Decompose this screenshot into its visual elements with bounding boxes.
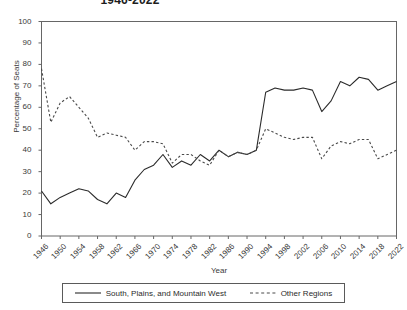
chart-figure: 1946-2022 Percentage of Seats Year 01020… — [0, 0, 407, 310]
legend-label-other-regions: Other Regions — [281, 289, 333, 298]
legend-line-dashed-icon — [250, 289, 276, 297]
legend-label-south-plains-mountain-west: South, Plains, and Mountain West — [106, 289, 226, 298]
plot-area — [0, 0, 407, 310]
chart-legend: South, Plains, and Mountain West Other R… — [62, 283, 345, 303]
legend-item-other-regions[interactable]: Other Regions — [250, 289, 333, 298]
plot-frame — [42, 22, 397, 237]
legend-item-south-plains-mountain-west[interactable]: South, Plains, and Mountain West — [75, 289, 226, 298]
legend-line-solid-icon — [75, 289, 101, 297]
